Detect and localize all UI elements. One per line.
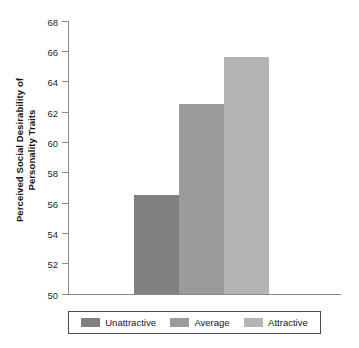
- y-axis-tick-label: 66: [47, 46, 58, 57]
- y-axis-tick: 64: [62, 81, 69, 82]
- y-axis-tick: 68: [62, 21, 69, 22]
- y-axis-tick: 50: [62, 294, 69, 295]
- legend-label: Unattractive: [105, 317, 156, 328]
- y-axis-tick-label: 54: [47, 228, 58, 239]
- y-axis-title-line-2: Personality Traits: [26, 110, 37, 191]
- bar-chart-figure: Perceived Social Desirability of Persona…: [0, 0, 359, 348]
- y-axis-tick-label: 68: [47, 16, 58, 27]
- y-axis-tick: 56: [62, 203, 69, 204]
- y-axis-title: Perceived Social Desirability of Persona…: [6, 0, 46, 300]
- chart-legend: UnattractiveAverageAttractive: [68, 311, 321, 334]
- y-axis-tick-label: 62: [47, 107, 58, 118]
- legend-swatch-icon: [170, 318, 189, 327]
- legend-label: Average: [194, 317, 229, 328]
- bar-series: [69, 21, 341, 294]
- legend-item-average: Average: [170, 317, 229, 328]
- bar-average: [179, 104, 224, 294]
- y-axis-tick-label: 60: [47, 137, 58, 148]
- y-axis-tick: 66: [62, 51, 69, 52]
- legend-swatch-icon: [81, 318, 100, 327]
- legend-swatch-icon: [244, 318, 263, 327]
- legend-item-unattractive: Unattractive: [81, 317, 156, 328]
- y-axis-tick: 62: [62, 112, 69, 113]
- y-axis-tick-label: 58: [47, 168, 58, 179]
- plot-area: 50525456586062646668: [68, 21, 341, 295]
- y-axis-tick-label: 64: [47, 77, 58, 88]
- legend-item-attractive: Attractive: [244, 317, 308, 328]
- bar-unattractive: [134, 195, 179, 294]
- y-axis-tick: 52: [62, 263, 69, 264]
- bar-attractive: [224, 57, 269, 294]
- y-axis-tick: 58: [62, 172, 69, 173]
- y-axis-tick-label: 50: [47, 289, 58, 300]
- y-axis-tick: 54: [62, 233, 69, 234]
- y-axis-title-line-1: Perceived Social Desirability of: [14, 78, 25, 222]
- y-axis-title-text: Perceived Social Desirability of Persona…: [14, 78, 38, 222]
- y-axis-tick-label: 56: [47, 198, 58, 209]
- legend-label: Attractive: [268, 317, 308, 328]
- y-axis-tick: 60: [62, 142, 69, 143]
- y-axis-tick-label: 52: [47, 259, 58, 270]
